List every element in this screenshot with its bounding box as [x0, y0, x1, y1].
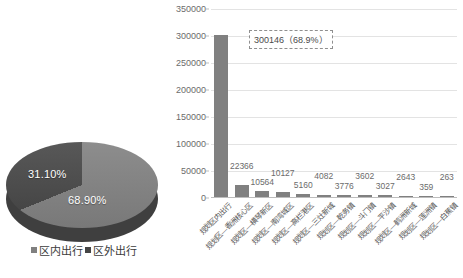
y-tick-mark — [206, 117, 209, 118]
chart-canvas: 31.10% 68.90% 区内出行区外出行 05000010000015000… — [0, 0, 463, 278]
pie-legend: 区内出行区外出行 — [0, 242, 168, 258]
y-tick-mark — [206, 36, 209, 37]
y-tick-mark — [206, 144, 209, 145]
bar[interactable] — [214, 35, 228, 197]
bar-slot[interactable]: 3776 — [334, 8, 354, 197]
bar-value-label: 10564 — [250, 177, 274, 187]
y-tick-mark — [206, 90, 209, 91]
bar-value-label: 359 — [419, 182, 433, 192]
bar-value-label: 5160 — [294, 180, 313, 190]
bar-value-label: 263 — [440, 172, 454, 182]
y-tick-mark — [206, 198, 209, 199]
bar-value-label: 3602 — [355, 171, 374, 181]
bar[interactable] — [440, 196, 454, 197]
bar-value-label: 3776 — [335, 181, 354, 191]
y-tick-label: 100000 — [160, 139, 206, 149]
legend-swatch-icon — [31, 247, 37, 253]
value-callout: 300146（68.9%） — [249, 30, 333, 49]
bar[interactable] — [296, 194, 310, 197]
pie-chart-panel: 31.10% 68.90% 区内出行区外出行 — [0, 130, 168, 278]
y-tick-label: 350000 — [160, 4, 206, 14]
bar-value-label: 22366 — [230, 161, 254, 171]
bar[interactable] — [317, 195, 331, 197]
bar[interactable] — [358, 195, 372, 197]
bar[interactable] — [419, 196, 433, 197]
y-tick-mark — [206, 9, 209, 10]
y-tick-mark — [206, 63, 209, 64]
bar-value-label: 10127 — [271, 168, 295, 178]
bar-value-label: 2643 — [396, 172, 415, 182]
y-tick-label: 200000 — [160, 85, 206, 95]
y-tick-label: 150000 — [160, 112, 206, 122]
pie-slice-label-outside: 31.10% — [28, 168, 67, 180]
bar-slot[interactable]: 3602 — [355, 8, 375, 197]
bar-slot[interactable]: 2643 — [396, 8, 416, 197]
legend-swatch-icon — [85, 247, 91, 253]
y-tick-label: 50000 — [160, 166, 206, 176]
pie-legend-item-1[interactable]: 区外出行 — [85, 242, 137, 258]
pie-slices — [6, 142, 158, 228]
bar[interactable] — [378, 195, 392, 197]
y-tick-mark — [206, 171, 209, 172]
bar[interactable] — [337, 195, 351, 197]
x-axis-line — [211, 197, 457, 198]
pie-legend-item-0[interactable]: 区内出行 — [31, 242, 83, 258]
y-tick-label: 250000 — [160, 58, 206, 68]
bar[interactable] — [235, 185, 249, 197]
x-axis-labels: 规划区内出行规划区—香洲核心区规划区—横琴新区规划区—南湾城区规划区—高栏港区规… — [211, 200, 463, 278]
pie-slice-label-inside: 68.90% — [68, 194, 107, 206]
bar-slot[interactable]: 3027 — [375, 8, 395, 197]
bar-value-label: 4082 — [314, 171, 333, 181]
bar-chart-panel: 0500001000001500002000002500003000003500… — [165, 0, 463, 278]
bar-slot[interactable]: 263 — [437, 8, 457, 197]
bar-slot[interactable]: 359 — [416, 8, 436, 197]
bar-slot[interactable] — [211, 8, 231, 197]
bar-plot-area: 0500001000001500002000002500003000003500… — [211, 8, 457, 198]
bar[interactable] — [399, 196, 413, 197]
pie-chart: 31.10% 68.90% — [6, 142, 158, 238]
bar-value-label: 3027 — [376, 181, 395, 191]
pie-legend-label: 区内出行 — [39, 242, 83, 258]
bar-series: 2236610564101275160408237763602302726433… — [211, 8, 457, 197]
y-tick-label: 0 — [160, 193, 206, 203]
bar[interactable] — [255, 191, 269, 197]
bar[interactable] — [276, 192, 290, 197]
pie-legend-label: 区外出行 — [93, 242, 137, 258]
y-tick-label: 300000 — [160, 31, 206, 41]
